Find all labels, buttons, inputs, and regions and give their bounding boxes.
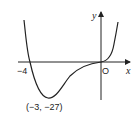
minimum-point-label: (−3, −27) <box>26 102 63 112</box>
y-axis-label: y <box>91 10 97 21</box>
origin-label: O <box>102 66 109 76</box>
function-curve <box>24 20 118 98</box>
x-axis-label: x <box>125 65 131 76</box>
graph-canvas: y x O −4 (−3, −27) <box>0 0 140 117</box>
x-intercept-label: −4 <box>17 66 27 76</box>
